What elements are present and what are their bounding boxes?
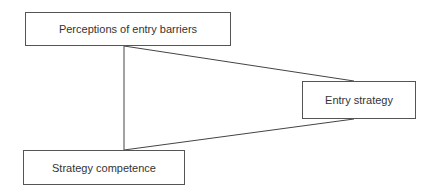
edge-bottom-right [124, 119, 354, 150]
node-label: Entry strategy [325, 94, 393, 106]
node-entry-strategy: Entry strategy [302, 81, 416, 119]
node-perceptions-of-entry-barriers: Perceptions of entry barriers [25, 12, 231, 46]
node-label: Perceptions of entry barriers [59, 23, 197, 35]
node-strategy-competence: Strategy competence [23, 150, 185, 185]
edge-top-right [124, 46, 354, 81]
node-label: Strategy competence [52, 162, 156, 174]
